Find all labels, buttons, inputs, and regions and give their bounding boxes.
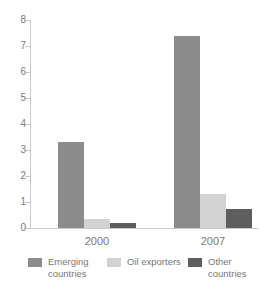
y-axis-tick: 0	[30, 228, 35, 229]
x-axis-label-2007: 2007	[174, 234, 252, 248]
bar	[58, 142, 84, 228]
legend-label: Emerging countries	[48, 256, 89, 280]
y-axis-tick-label: 5	[20, 91, 26, 104]
x-axis-label-2000: 2000	[58, 234, 136, 248]
bar	[200, 194, 226, 228]
bar-chart: 876543210 20002007 Emerging countriesOil…	[0, 0, 268, 293]
bar	[226, 209, 252, 229]
bar	[174, 36, 200, 228]
legend-item[interactable]: Emerging countries	[28, 256, 89, 280]
legend-swatch-icon	[188, 258, 202, 267]
legend-label: Oil exporters	[127, 256, 181, 268]
legend-item[interactable]: Oil exporters	[107, 256, 181, 268]
bar-group-2000	[58, 14, 136, 228]
bar	[84, 219, 110, 228]
y-axis-tick-label: 6	[20, 65, 26, 78]
y-axis-tick-label: 8	[20, 13, 26, 26]
y-axis-tick-label: 7	[20, 39, 26, 52]
y-axis-tick-label: 3	[20, 143, 26, 156]
legend-item[interactable]: Other countries	[188, 256, 247, 280]
bar-group-2007	[174, 14, 252, 228]
y-axis-tick-label: 0	[20, 221, 26, 234]
plot-area: 876543210 20002007	[30, 14, 258, 229]
bar	[110, 223, 136, 228]
legend-label: Other countries	[208, 256, 247, 280]
bars-layer	[31, 14, 258, 228]
x-axis-line	[30, 228, 258, 229]
chart-legend: Emerging countriesOil exportersOther cou…	[0, 256, 268, 290]
legend-swatch-icon	[28, 258, 42, 267]
y-axis-tick-label: 4	[20, 117, 26, 130]
y-axis-tick-label: 1	[20, 195, 26, 208]
legend-swatch-icon	[107, 258, 121, 267]
y-axis-tick-label: 2	[20, 169, 26, 182]
